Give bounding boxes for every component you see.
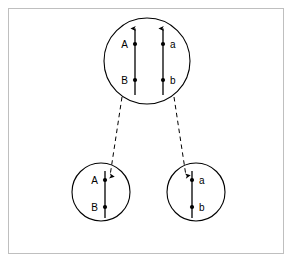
- locus-label-a: a: [170, 39, 176, 50]
- locus-label-A: A: [121, 39, 128, 50]
- daughter-left-membrane: [72, 163, 130, 221]
- locus-dot-a: [161, 42, 165, 46]
- cell-division-figure: A B a b A B: [0, 0, 293, 264]
- daughter-cell-right: a b: [167, 163, 225, 221]
- locus-label-b: b: [199, 202, 205, 213]
- locus-dot-a: [190, 178, 194, 182]
- locus-label-B: B: [121, 75, 128, 86]
- locus-label-a: a: [199, 175, 205, 186]
- division-connectors: [110, 97, 186, 176]
- parent-chromosome-left: A B: [121, 29, 137, 96]
- daughter-cell-left: A B: [72, 163, 130, 221]
- locus-dot-B: [133, 78, 137, 82]
- locus-dot-A: [103, 178, 107, 182]
- parent-chromosome-right: a b: [161, 29, 176, 96]
- locus-dot-A: [133, 42, 137, 46]
- connector-to-right-daughter: [174, 97, 186, 176]
- parent-cell-membrane: [104, 18, 190, 104]
- daughter-right-chromosome: a b: [190, 171, 205, 218]
- locus-label-b: b: [170, 75, 176, 86]
- locus-label-A: A: [91, 175, 98, 186]
- daughter-right-membrane: [167, 163, 225, 221]
- locus-dot-B: [103, 205, 107, 209]
- parent-cell: A B a b: [104, 18, 190, 104]
- daughter-left-chromosome: A B: [91, 171, 107, 218]
- locus-label-B: B: [91, 202, 98, 213]
- diagram-canvas: A B a b A B: [0, 0, 293, 264]
- connector-to-left-daughter: [110, 97, 122, 176]
- locus-dot-b: [161, 78, 165, 82]
- locus-dot-b: [190, 205, 194, 209]
